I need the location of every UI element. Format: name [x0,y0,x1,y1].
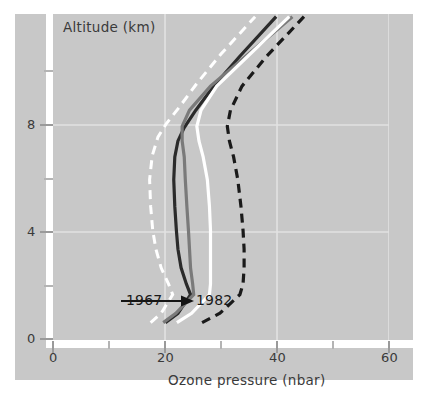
ytick-label-4: 4 [27,224,35,239]
xtick-label-40: 40 [269,350,286,365]
series-line-1982 [202,17,304,323]
ytick-label-0: 0 [27,331,35,346]
annotation-start-year: 1967 [126,292,162,308]
x-axis-gutter [46,340,413,348]
y-axis-title: Altitude (km) [63,19,155,35]
x-axis-title: Ozone pressure (nbar) [168,372,326,388]
ozone-profile-figure: 8 4 0 0 20 40 60 Altitude (km) Ozone pre… [0,0,427,398]
xtick-label-20: 20 [157,350,174,365]
xtick-label-60: 60 [381,350,398,365]
xtick-label-0: 0 [49,350,57,365]
ytick-label-8: 8 [27,117,35,132]
data-series-layer [150,17,304,323]
annotation-end-year: 1982 [196,292,232,308]
